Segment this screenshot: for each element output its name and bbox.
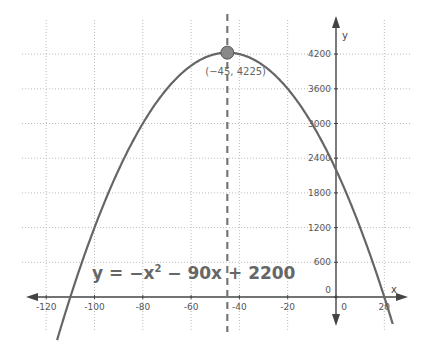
x-tick-label: -100	[84, 302, 105, 312]
parabola-chart: yx -120-100-80-60-40-2002006001200180024…	[0, 0, 432, 342]
x-axis-left-arrow-icon	[26, 293, 38, 301]
equation-label: y = −x2 − 90x + 2200	[92, 263, 296, 283]
y-tick-label: 0	[325, 285, 331, 295]
x-tick-label: -40	[232, 302, 247, 312]
y-axis-up-arrow-icon	[332, 16, 340, 28]
y-axis-down-arrow-icon	[332, 314, 340, 326]
vertex-marker[interactable]	[221, 46, 234, 59]
y-tick-label: 4200	[308, 49, 331, 59]
y-tick-label: 3600	[308, 84, 331, 94]
x-tick-label: -20	[280, 302, 295, 312]
vertex-point	[221, 46, 234, 59]
x-tick-label: -80	[135, 302, 150, 312]
y-axis-label: y	[342, 30, 348, 41]
x-tick-label: -60	[184, 302, 199, 312]
x-axis-label: x	[391, 284, 397, 295]
x-tick-label: -120	[36, 302, 57, 312]
y-tick-label: 600	[314, 257, 331, 267]
vertex-label: (−45, 4225)	[205, 66, 266, 77]
y-tick-label: 1200	[308, 223, 331, 233]
y-tick-label: 1800	[308, 188, 331, 198]
annotations: (−45, 4225)y = −x2 − 90x + 2200	[92, 66, 296, 283]
x-tick-label: 0	[341, 302, 347, 312]
x-axis-right-arrow-icon	[396, 293, 408, 301]
